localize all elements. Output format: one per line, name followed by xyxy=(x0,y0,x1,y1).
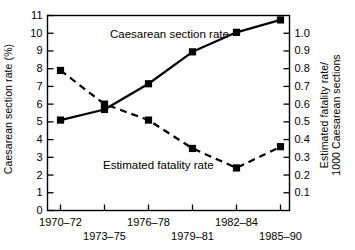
x-axis-tick-label: 1970–72 xyxy=(31,216,91,228)
series-annotation-label: Estimated fatality rate xyxy=(103,159,214,171)
data-point-marker xyxy=(189,145,196,152)
y-axis-left-tick-label: 0 xyxy=(21,205,43,216)
y-axis-right-tick-label: 0.6 xyxy=(295,99,323,110)
y-axis-left-tick-label: 3 xyxy=(21,152,43,163)
y-axis-left-tick-label: 5 xyxy=(21,116,43,127)
x-axis-tick-label: 1979–81 xyxy=(163,230,223,242)
y-axis-right-tick-label: 0.5 xyxy=(295,116,323,127)
y-axis-right-tick-label: 0.4 xyxy=(295,134,323,145)
data-point-marker xyxy=(277,16,284,23)
y-axis-left-tick-label: 6 xyxy=(21,99,43,110)
y-axis-right-tick-label: 1.0 xyxy=(295,28,323,39)
series-annotation-label: Caesarean section rate xyxy=(110,28,229,40)
data-point-marker xyxy=(101,101,108,108)
data-point-marker xyxy=(145,80,152,87)
y-axis-left-tick-label: 11 xyxy=(21,10,43,21)
x-axis-tick-label: 1982–84 xyxy=(207,216,267,228)
y-axis-left-tick-label: 10 xyxy=(21,28,43,39)
y-axis-right-tick-label: 0.3 xyxy=(295,152,323,163)
data-point-marker xyxy=(145,116,152,123)
y-axis-right-tick-label: 0.2 xyxy=(295,170,323,181)
y-axis-left-tick-label: 2 xyxy=(21,170,43,181)
x-axis-tick-label: 1985–90 xyxy=(251,230,311,242)
data-point-marker xyxy=(57,116,64,123)
y-axis-left-tick-label: 8 xyxy=(21,63,43,74)
y-axis-left-tick-label: 9 xyxy=(21,45,43,56)
y-axis-right-tick-label: 0.9 xyxy=(295,45,323,56)
x-axis-tick-label: 1973–75 xyxy=(75,230,135,242)
data-point-marker xyxy=(57,67,64,74)
y-axis-left-tick-label: 7 xyxy=(21,81,43,92)
y-axis-left-tick-label: 4 xyxy=(21,134,43,145)
y-axis-right-tick-label: 0.7 xyxy=(295,81,323,92)
data-point-marker xyxy=(233,164,240,171)
data-point-marker xyxy=(189,48,196,55)
data-point-marker xyxy=(277,143,284,150)
series-line-2 xyxy=(61,70,281,168)
y-axis-right-tick-label: 0.1 xyxy=(295,187,323,198)
data-point-marker xyxy=(233,29,240,36)
y-axis-right-tick-label: 0.8 xyxy=(295,63,323,74)
chart-container: Caesarean section rate (%) Estimated fat… xyxy=(0,0,355,250)
plot-frame xyxy=(48,16,290,211)
y-axis-left-tick-label: 1 xyxy=(21,187,43,198)
x-axis-tick-label: 1976–78 xyxy=(119,216,179,228)
